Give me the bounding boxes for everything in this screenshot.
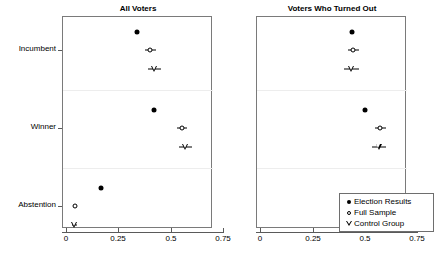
ytick-label-incumbent: Incumbent: [0, 44, 56, 53]
data-point-control-group: [348, 66, 354, 72]
data-point-election-results: [350, 30, 355, 35]
data-point-control-group: [151, 66, 157, 72]
data-point-full-sample: [351, 48, 356, 53]
legend-label-election-results: Election Results: [354, 196, 411, 207]
plot-area-all-voters: [62, 16, 212, 228]
xtick-mark-05: [171, 228, 172, 232]
group-separator-line: [257, 168, 407, 169]
data-point-control-group: [182, 144, 188, 150]
xaxis-line-panel1: [62, 232, 224, 233]
xtick-mark-025: [118, 228, 119, 232]
xtick-label-0: 0: [240, 234, 280, 243]
legend-item-control-group: Control Group: [343, 218, 430, 229]
xtick-mark-075: [223, 228, 224, 232]
figure-root: All Voters Incumbent Winner Abstention 0…: [0, 0, 436, 266]
legend-label-full-sample: Full Sample: [354, 207, 396, 218]
panel-title-all-voters: All Voters: [62, 4, 214, 13]
data-point-full-sample: [148, 48, 153, 53]
data-point-election-results: [363, 108, 368, 113]
data-point-election-results: [152, 108, 157, 113]
legend: Election Results Full Sample Control Gro…: [339, 193, 434, 232]
ytick-label-abstention: Abstention: [0, 200, 56, 209]
xaxis-line-panel2: [256, 232, 418, 233]
xtick-label-05: 0.5: [151, 234, 191, 243]
xtick-label-0: 0: [46, 234, 86, 243]
legend-item-full-sample: Full Sample: [343, 207, 430, 218]
ytick-mark-incumbent: [58, 50, 62, 51]
xtick-label-025: 0.25: [293, 234, 333, 243]
data-point-full-sample: [179, 126, 184, 131]
legend-label-control-group: Control Group: [354, 218, 404, 229]
group-separator-line: [257, 90, 407, 91]
data-point-full-sample: [378, 126, 383, 131]
group-separator-line: [63, 90, 213, 91]
xtick-label-075: 0.75: [203, 234, 243, 243]
filled-circle-icon: [343, 200, 354, 204]
data-point-full-sample: [72, 204, 77, 209]
ytick-mark-abstention: [58, 206, 62, 207]
open-triangle-down-icon: [343, 221, 354, 226]
data-point-election-results: [135, 30, 140, 35]
xtick-mark-0: [260, 228, 261, 232]
xtick-mark-025: [313, 228, 314, 232]
xtick-label-05: 0.5: [345, 234, 385, 243]
ytick-mark-winner: [58, 128, 62, 129]
xtick-label-075: 0.75: [397, 234, 436, 243]
xtick-label-025: 0.25: [98, 234, 138, 243]
ytick-label-winner: Winner: [0, 122, 56, 131]
data-point-control-group: [71, 222, 77, 228]
open-circle-icon: [343, 211, 354, 215]
group-separator-line: [63, 168, 213, 169]
data-point-control-group: [376, 144, 382, 150]
xtick-mark-0: [66, 228, 67, 232]
legend-item-election-results: Election Results: [343, 196, 430, 207]
data-point-election-results: [99, 186, 104, 191]
panel-title-voters-who-turned-out: Voters Who Turned Out: [256, 4, 408, 13]
